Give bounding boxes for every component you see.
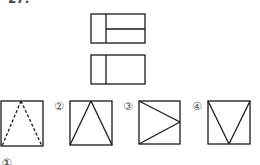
option-2-label: ② [54, 101, 64, 112]
option-3-label: ③ [123, 101, 133, 112]
figure-canvas [0, 0, 260, 165]
option-3-figure[interactable] [139, 101, 180, 144]
front-view [91, 14, 145, 43]
top-view [91, 55, 145, 84]
option-2-figure[interactable] [70, 101, 112, 145]
footer-fragment: ① [2, 157, 12, 165]
option-1-figure[interactable] [1, 101, 43, 146]
option-4-figure[interactable] [208, 101, 250, 144]
option-4-label: ④ [192, 101, 202, 112]
